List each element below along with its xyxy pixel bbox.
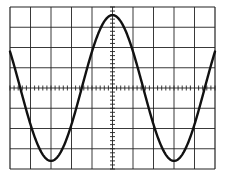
oscilloscope-chart <box>0 0 226 178</box>
